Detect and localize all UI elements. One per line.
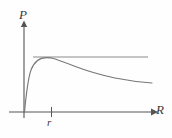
y-axis-label: P [19,8,27,21]
x-axis [9,109,158,116]
power-curve [25,58,153,112]
power-vs-resistance-figure: P R r [0,0,172,138]
x-axis-label: R [156,103,164,116]
r-tick-label: r [47,117,51,128]
y-axis [21,21,27,119]
